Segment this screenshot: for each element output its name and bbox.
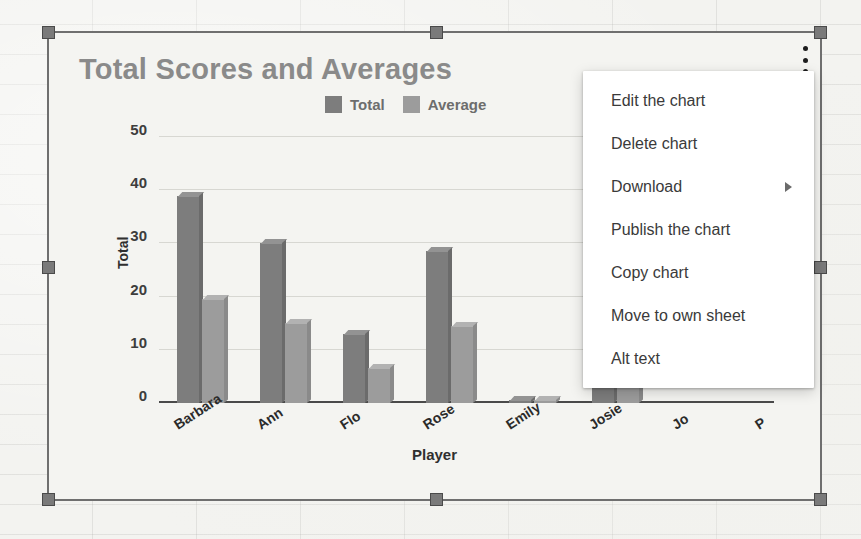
bar-group[interactable] [260,243,307,403]
kebab-dot [803,58,808,63]
x-axis-tick-label: Flo [337,408,363,433]
resize-handle-top-right[interactable] [814,26,827,39]
resize-handle-middle-left[interactable] [42,261,55,274]
resize-handle-top-left[interactable] [42,26,55,39]
legend-label: Total [350,96,385,113]
menu-item-label: Delete chart [611,135,697,152]
x-axis-tick-label: Ann [254,404,286,432]
submenu-chevron-right-icon [785,182,792,192]
x-axis-title: Player [47,446,822,463]
resize-handle-bottom-left[interactable] [42,493,55,506]
y-axis-tick-label: 50 [130,121,147,138]
menu-item-delete-chart[interactable]: Delete chart [583,122,814,165]
y-axis-tick-label: 40 [130,174,147,191]
menu-item-move-to-own-sheet[interactable]: Move to own sheet [583,294,814,337]
bar-group[interactable] [343,334,390,403]
menu-item-edit-the-chart[interactable]: Edit the chart [583,79,814,122]
bar-average[interactable] [202,299,224,403]
bar-average[interactable] [451,326,473,403]
menu-item-label: Alt text [611,350,660,367]
x-axis-tick-label-occluded: P [752,414,769,433]
bar-average[interactable] [368,368,390,403]
menu-item-copy-chart[interactable]: Copy chart [583,251,814,294]
kebab-dot [803,46,808,51]
chart-context-menu[interactable]: Edit the chartDelete chartDownloadPublis… [583,71,814,388]
legend-item-total[interactable]: Total [325,96,385,113]
legend-label: Average [428,96,487,113]
menu-item-label: Publish the chart [611,221,730,238]
resize-handle-top-center[interactable] [430,26,443,39]
legend-item-average[interactable]: Average [403,96,487,113]
x-axis-tick-label-occluded: Jo [669,410,691,432]
y-axis-tick-label: 20 [130,280,147,297]
bar-total[interactable] [260,243,282,403]
bar-group[interactable] [177,196,224,403]
x-axis-tick-label: Josie [586,399,625,432]
x-axis-tick-label: Rose [420,400,457,432]
menu-item-download[interactable]: Download [583,165,814,208]
y-axis-title: Total [115,237,131,269]
resize-handle-middle-right[interactable] [814,261,827,274]
resize-handle-bottom-right[interactable] [814,493,827,506]
bar-average[interactable] [285,323,307,403]
bar-group[interactable] [426,251,473,403]
menu-item-publish-the-chart[interactable]: Publish the chart [583,208,814,251]
y-axis-tick-label: 30 [130,227,147,244]
chart-title: Total Scores and Averages [79,53,452,86]
bar-total[interactable] [343,334,365,403]
menu-item-label: Copy chart [611,264,688,281]
resize-handle-bottom-center[interactable] [430,493,443,506]
bar-total[interactable] [177,196,199,403]
menu-item-label: Edit the chart [611,92,705,109]
legend-swatch-icon [325,96,342,113]
x-axis-tick-label: Emily [503,399,543,433]
legend-swatch-icon [403,96,420,113]
bar-total[interactable] [426,251,448,403]
y-axis-tick-label: 0 [139,387,147,404]
menu-item-label: Move to own sheet [611,307,745,324]
menu-item-label: Download [611,178,682,195]
chart-legend: TotalAverage [325,96,486,113]
menu-item-alt-text[interactable]: Alt text [583,337,814,380]
y-axis-tick-label: 10 [130,333,147,350]
